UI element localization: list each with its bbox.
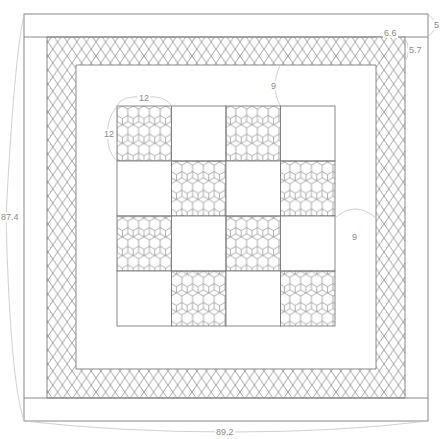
plain-block	[117, 271, 172, 326]
block-height-label: 12	[103, 129, 115, 139]
overall-height-label: 87.4	[0, 212, 20, 222]
outer-border-width-label: 5	[433, 20, 440, 30]
plain-block	[172, 106, 227, 161]
lattice-height-label: 5.7	[408, 45, 423, 55]
hex-block	[281, 271, 336, 326]
plain-block	[117, 161, 172, 216]
plain-block	[281, 216, 336, 271]
hex-block	[117, 106, 172, 161]
hex-block	[117, 216, 172, 271]
inner-border-right-label: 9	[351, 232, 358, 242]
overall-width-label: 89.2	[215, 427, 235, 437]
quilt-diagram	[0, 0, 444, 439]
hex-block	[172, 271, 227, 326]
plain-block	[226, 161, 281, 216]
block-width-label: 12	[138, 93, 150, 103]
inner-border-top-label: 9	[270, 81, 277, 91]
plain-block	[172, 216, 227, 271]
hex-block	[281, 161, 336, 216]
hex-block	[226, 216, 281, 271]
checkerboard	[117, 106, 335, 326]
lattice-width-label: 6.6	[383, 28, 398, 38]
hex-block	[226, 106, 281, 161]
hex-block	[172, 161, 227, 216]
plain-block	[281, 106, 336, 161]
plain-block	[226, 271, 281, 326]
